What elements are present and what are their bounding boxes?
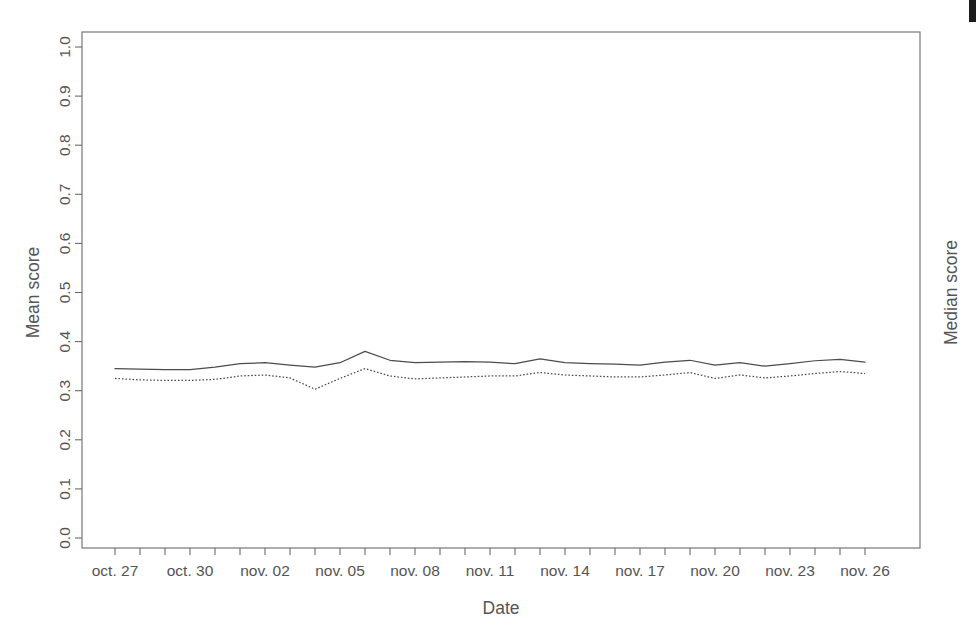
y-axis-tick-label: 0.9 — [56, 85, 73, 107]
chart-figure: 0.00.10.20.30.40.50.60.70.80.91.0 oct. 2… — [0, 0, 976, 634]
x-axis-tick-label: nov. 08 — [390, 562, 440, 579]
x-axis-tick-label: oct. 27 — [92, 562, 139, 579]
x-axis-tick-label: nov. 20 — [690, 562, 740, 579]
y-axis-tick-label: 1.0 — [56, 36, 73, 58]
x-axis-tick-label: nov. 26 — [840, 562, 890, 579]
y-axis-tick-label: 0.2 — [56, 429, 73, 451]
y-axis-tick-label: 0.0 — [56, 527, 73, 549]
y-axis-tick-label: 0.7 — [56, 184, 73, 206]
y-axis-tick-label: 0.4 — [56, 330, 73, 352]
x-axis-tick-label: oct. 30 — [167, 562, 214, 579]
x-axis-tick-label: nov. 17 — [615, 562, 665, 579]
y-axis-tick-label: 0.6 — [56, 233, 73, 255]
y-axis-title-left: Mean score — [23, 247, 43, 338]
y-axis-title-right: Median score — [941, 240, 961, 345]
x-axis-tick-label: nov. 05 — [315, 562, 365, 579]
x-axis-tick-label: nov. 14 — [540, 562, 590, 579]
x-axis-tick-labels: oct. 27oct. 30nov. 02nov. 05nov. 08nov. … — [92, 562, 890, 579]
line-chart: 0.00.10.20.30.40.50.60.70.80.91.0 oct. 2… — [0, 0, 976, 634]
y-axis-tick-label: 0.1 — [56, 478, 73, 500]
x-axis-tick-label: nov. 11 — [466, 562, 515, 579]
scan-artifact-mark — [969, 0, 976, 22]
y-axis-tick-label: 0.3 — [56, 380, 73, 402]
x-axis-title: Date — [483, 598, 520, 618]
y-axis-tick-label: 0.5 — [56, 282, 73, 304]
chart-background — [0, 0, 976, 634]
x-axis-tick-label: nov. 02 — [240, 562, 290, 579]
y-axis-tick-label: 0.8 — [56, 134, 73, 156]
x-axis-tick-label: nov. 23 — [765, 562, 815, 579]
